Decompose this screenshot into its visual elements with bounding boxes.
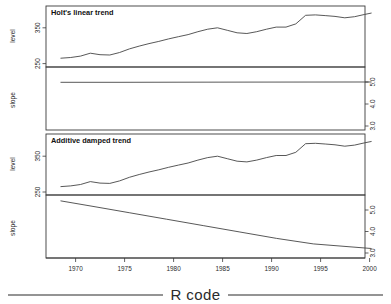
series-damped-slope [61,201,371,249]
panel-damped-slope-frame [46,195,365,258]
r-plot-figure: Holt's linear trend 350 250 level 5.0 4.… [0,0,391,304]
ytick-label-holt-level-250: 250 [34,58,41,69]
ytick-label-damped-slope-3: 3.0 [369,248,376,257]
axis-title-holt-level: level [9,29,16,43]
ytick-label-damped-slope-4: 4.0 [369,227,376,236]
ytick-label-holt-slope-5: 5.0 [369,77,376,86]
panel-damped-slope: 5.0 4.0 3.0 slope [9,195,376,258]
ytick-label-damped-level-250: 250 [34,186,41,197]
panel-holt-level: Holt's linear trend 350 250 level [9,6,371,69]
footer-r-code: R code [8,286,383,303]
panel-damped-level-title: Additive damped trend [51,136,132,145]
panel-damped-level: Additive damped trend 350 250 level [9,134,371,197]
ytick-label-holt-slope-4: 4.0 [369,99,376,108]
panel-holt-level-title: Holt's linear trend [51,8,114,17]
xtick-label-1995: 1995 [313,265,328,272]
multi-panel-chart: Holt's linear trend 350 250 level 5.0 4.… [0,0,391,304]
axis-title-damped-slope: slope [9,220,17,236]
series-holt-level [61,13,371,58]
axis-title-holt-slope: slope [9,92,17,108]
panel-holt-slope-frame [46,67,365,130]
axis-title-damped-level: level [9,157,16,171]
series-damped-level [61,142,371,187]
x-axis: 1970 1975 1980 1985 1990 1995 2000 [46,258,377,272]
ytick-label-holt-level-350: 350 [34,22,41,33]
xtick-label-1975: 1975 [117,265,132,272]
xtick-label-2000: 2000 [362,265,377,272]
ytick-label-damped-level-350: 350 [34,150,41,161]
xtick-label-1985: 1985 [215,265,230,272]
xtick-label-1980: 1980 [166,265,181,272]
xtick-label-1990: 1990 [264,265,279,272]
panel-holt-slope: 5.0 4.0 3.0 slope [9,67,376,130]
ytick-label-damped-slope-5: 5.0 [369,205,376,214]
footer-r-code-label: R code [171,286,221,303]
xtick-label-1970: 1970 [68,265,83,272]
ytick-label-holt-slope-3: 3.0 [369,121,376,130]
